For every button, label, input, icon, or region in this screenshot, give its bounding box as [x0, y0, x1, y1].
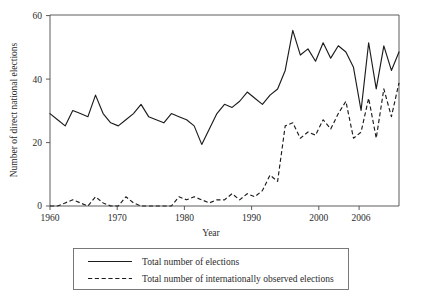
y-tick-label-60: 60 [33, 11, 43, 21]
line-chart: 60 40 20 0 1960 1970 1980 1990 2000 2006… [0, 0, 422, 298]
x-tick-label-1980: 1980 [175, 213, 194, 223]
x-axis-tick-labels: 1960 1970 1980 1990 2000 2006 [41, 213, 371, 223]
legend-label-total-elections: Total number of elections [142, 257, 240, 267]
x-tick-label-2006: 2006 [352, 213, 371, 223]
y-axis-ticks [46, 16, 50, 206]
series-observed-elections [50, 83, 399, 206]
legend-label-observed-elections: Total number of internationally observed… [142, 274, 334, 284]
chart-figure: 60 40 20 0 1960 1970 1980 1990 2000 2006… [0, 0, 422, 298]
x-tick-label-1990: 1990 [242, 213, 261, 223]
x-tick-label-2000: 2000 [309, 213, 328, 223]
y-axis-title: Number of direct national elections [9, 42, 19, 177]
x-tick-label-1960: 1960 [41, 213, 60, 223]
series-total-elections [50, 30, 399, 144]
y-tick-label-0: 0 [37, 201, 42, 211]
x-tick-label-1970: 1970 [108, 213, 127, 223]
x-axis-ticks [50, 206, 359, 210]
y-axis-tick-labels: 60 40 20 0 [33, 11, 43, 211]
x-axis-title: Year [202, 228, 220, 238]
y-tick-label-20: 20 [33, 138, 43, 148]
chart-legend: Total number of elections Total number o… [74, 249, 349, 290]
y-tick-label-40: 40 [33, 75, 43, 85]
